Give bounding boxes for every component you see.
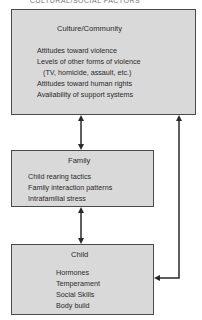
child-culture-connector [157,118,179,278]
arrowhead-down-icon [78,144,84,150]
arrowhead-down-icon [78,238,84,244]
arrowhead-up-icon [78,115,84,121]
arrowhead-left-icon [154,275,160,281]
arrowhead-up-icon [78,207,84,213]
arrowhead-up-icon [176,115,182,121]
connector-arrows [0,0,202,320]
